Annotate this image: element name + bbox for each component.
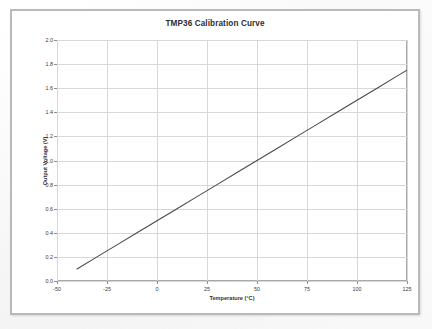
y-axis-tick-label: 1.8	[46, 61, 54, 67]
x-axis-tick-label: -25	[103, 286, 111, 292]
x-axis-tick-mark	[257, 281, 258, 284]
y-axis-tick-label: 1.4	[46, 109, 54, 115]
chart-title: TMP36 Calibration Curve	[12, 19, 418, 28]
x-axis-tick-mark	[107, 281, 108, 284]
x-axis-tick-mark	[407, 281, 408, 284]
x-axis-tick-label: 25	[204, 286, 210, 292]
series-polyline	[77, 70, 407, 269]
plot-region: 0.00.20.40.60.81.01.21.41.61.82.0 -50-25…	[57, 40, 407, 281]
x-axis-tick-mark	[157, 281, 158, 284]
y-axis-tick-mark	[54, 64, 57, 65]
y-axis-tick-mark	[54, 136, 57, 137]
y-axis-tick-label: 0.2	[46, 254, 54, 260]
y-axis-tick-label: 1.6	[46, 85, 54, 91]
x-axis-tick-label: 125	[403, 286, 412, 292]
x-axis-tick-mark	[57, 281, 58, 284]
y-axis-tick-mark	[54, 88, 57, 89]
data-series-line	[57, 40, 407, 281]
y-axis-tick-mark	[54, 233, 57, 234]
x-axis-tick-mark	[307, 281, 308, 284]
y-axis-tick-mark	[54, 185, 57, 186]
y-axis-tick-label: 2.0	[46, 37, 54, 43]
x-axis-tick-label: 0	[156, 286, 159, 292]
x-axis-tick-label: 75	[304, 286, 310, 292]
y-axis-tick-mark	[54, 257, 57, 258]
x-axis-tick-label: 50	[254, 286, 260, 292]
chart-figure-frame: TMP36 Calibration Curve 0.00.20.40.60.81…	[10, 9, 420, 315]
y-axis-tick-mark	[54, 209, 57, 210]
y-axis-tick-label: 0.0	[46, 278, 54, 284]
gridline-horizontal	[57, 281, 407, 282]
x-axis-tick-label: -50	[53, 286, 61, 292]
y-axis-tick-mark	[54, 112, 57, 113]
x-axis-tick-mark	[207, 281, 208, 284]
y-axis-tick-label: 0.4	[46, 230, 54, 236]
x-axis-tick-mark	[357, 281, 358, 284]
y-axis-tick-mark	[54, 161, 57, 162]
y-axis-tick-mark	[54, 40, 57, 41]
gridline-vertical	[407, 40, 408, 281]
y-axis-tick-label: 0.6	[46, 206, 54, 212]
x-axis-title: Temperature (°C)	[57, 295, 407, 301]
x-axis-tick-label: 100	[353, 286, 362, 292]
y-axis-title: Output Voltage (V)	[42, 136, 48, 185]
